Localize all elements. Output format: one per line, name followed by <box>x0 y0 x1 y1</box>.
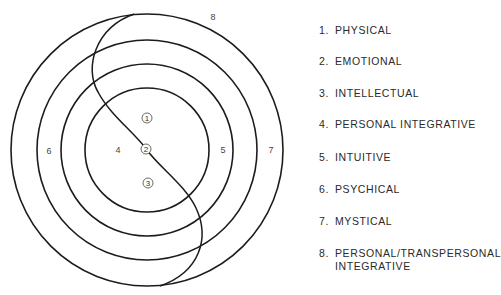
legend-label: PSYCHICAL <box>335 183 400 196</box>
region-labels: 4 5 6 7 8 <box>46 12 273 156</box>
legend-item-intuitive: 5.INTUITIVE <box>319 151 391 164</box>
circled-labels: 1 2 3 <box>141 113 153 188</box>
legend-item-intellectual: 3.INTELLECTUAL <box>319 87 419 100</box>
svg-text:1: 1 <box>145 114 150 123</box>
legend-number: 3. <box>319 87 335 100</box>
legend-label: PERSONAL INTEGRATIVE <box>335 118 476 131</box>
legend-label: MYSTICAL <box>335 215 392 228</box>
region-label-6: 6 <box>46 146 51 156</box>
legend-item-emotional: 2.EMOTIONAL <box>319 55 402 68</box>
circled-label-3: 3 <box>143 178 153 188</box>
legend-item-personal-integrative: 4.PERSONAL INTEGRATIVE <box>319 118 476 131</box>
legend-label: INTUITIVE <box>335 151 391 164</box>
legend-item-mystical: 7.MYSTICAL <box>319 215 392 228</box>
legend-number: 1. <box>319 24 335 37</box>
legend-item-psychical: 6.PSYCHICAL <box>319 183 400 196</box>
svg-text:2: 2 <box>144 145 149 154</box>
legend-number: 4. <box>319 118 335 131</box>
legend-number: 7. <box>319 215 335 228</box>
legend-number: 5. <box>319 151 335 164</box>
legend-number: 2. <box>319 55 335 68</box>
svg-text:3: 3 <box>146 179 151 188</box>
legend-label-line2: INTEGRATIVE <box>335 260 411 272</box>
circled-label-1: 1 <box>142 113 152 123</box>
concentric-levels-diagram: 4 5 6 7 8 1 2 3 <box>0 0 300 295</box>
legend-label: PERSONAL/TRANSPERSONALINTEGRATIVE <box>335 247 501 273</box>
legend-number: 6. <box>319 183 335 196</box>
region-label-5: 5 <box>220 145 225 155</box>
legend-label-line1: PERSONAL/TRANSPERSONAL <box>335 247 501 259</box>
legend-label: PHYSICAL <box>335 24 392 37</box>
legend-number: 8. <box>319 247 335 260</box>
legend-label: INTELLECTUAL <box>335 87 419 100</box>
region-label-8: 8 <box>210 12 215 22</box>
region-label-7: 7 <box>268 145 273 155</box>
legend-label: EMOTIONAL <box>335 55 402 68</box>
legend-item-physical: 1.PHYSICAL <box>319 24 392 37</box>
circled-label-2: 2 <box>141 144 151 154</box>
legend-item-personal-transpersonal-integrative: 8.PERSONAL/TRANSPERSONALINTEGRATIVE <box>319 247 501 273</box>
region-label-4: 4 <box>115 145 120 155</box>
